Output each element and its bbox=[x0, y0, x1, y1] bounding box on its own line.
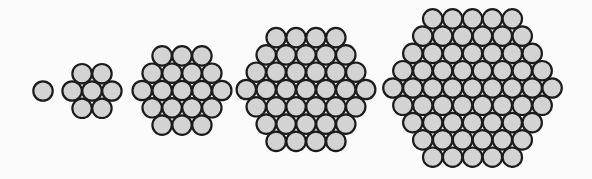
circle bbox=[346, 62, 365, 81]
circle bbox=[306, 62, 325, 81]
circle bbox=[142, 63, 161, 82]
circle bbox=[82, 81, 101, 100]
circle bbox=[503, 9, 522, 28]
circle bbox=[383, 78, 402, 97]
circle bbox=[403, 44, 422, 63]
circle bbox=[202, 63, 221, 82]
circle bbox=[473, 96, 492, 115]
circle bbox=[532, 96, 551, 115]
circle bbox=[463, 113, 482, 132]
circle bbox=[503, 148, 522, 167]
circle bbox=[413, 26, 432, 45]
circle bbox=[443, 148, 462, 167]
circle bbox=[257, 45, 276, 64]
circle bbox=[162, 63, 181, 82]
circle bbox=[463, 78, 482, 97]
circle bbox=[433, 26, 452, 45]
circle bbox=[433, 96, 452, 115]
circle bbox=[276, 80, 295, 99]
circle bbox=[493, 26, 512, 45]
circle bbox=[513, 96, 532, 115]
circle bbox=[513, 61, 532, 80]
circle bbox=[483, 44, 502, 63]
circle bbox=[493, 96, 512, 115]
circle bbox=[212, 81, 231, 100]
circle bbox=[326, 97, 345, 116]
circle bbox=[403, 78, 422, 97]
circle bbox=[523, 78, 542, 97]
circle bbox=[276, 45, 295, 64]
circle bbox=[483, 113, 502, 132]
circle bbox=[192, 81, 211, 100]
circle bbox=[306, 97, 325, 116]
circle bbox=[336, 45, 355, 64]
circle bbox=[423, 78, 442, 97]
circle bbox=[266, 62, 285, 81]
circle bbox=[463, 9, 482, 28]
circle bbox=[473, 26, 492, 45]
diagram-canvas bbox=[0, 0, 592, 179]
circle bbox=[306, 28, 325, 47]
circle bbox=[423, 44, 442, 63]
circle bbox=[102, 81, 121, 100]
circle bbox=[493, 130, 512, 149]
circle bbox=[257, 80, 276, 99]
circle bbox=[356, 80, 375, 99]
circle bbox=[266, 97, 285, 116]
circle bbox=[483, 9, 502, 28]
circle bbox=[413, 130, 432, 149]
circle bbox=[296, 45, 315, 64]
circle bbox=[257, 114, 276, 133]
circle bbox=[286, 97, 305, 116]
circle bbox=[336, 80, 355, 99]
circle bbox=[423, 9, 442, 28]
circle bbox=[413, 96, 432, 115]
circle bbox=[393, 96, 412, 115]
circle bbox=[286, 62, 305, 81]
circle bbox=[443, 78, 462, 97]
circle bbox=[463, 44, 482, 63]
circle bbox=[473, 130, 492, 149]
circle bbox=[483, 148, 502, 167]
circle bbox=[296, 114, 315, 133]
circle bbox=[192, 115, 211, 134]
hexagonal-circle-packing-diagram bbox=[0, 0, 592, 179]
circle bbox=[172, 81, 191, 100]
circle bbox=[336, 114, 355, 133]
circle bbox=[423, 148, 442, 167]
circle bbox=[346, 97, 365, 116]
circle bbox=[296, 80, 315, 99]
circle bbox=[453, 130, 472, 149]
circle bbox=[453, 96, 472, 115]
circle bbox=[72, 99, 91, 118]
circle bbox=[172, 46, 191, 65]
circle bbox=[182, 98, 201, 117]
circle bbox=[433, 130, 452, 149]
circle bbox=[247, 97, 266, 116]
circle bbox=[423, 113, 442, 132]
circle bbox=[202, 98, 221, 117]
circle bbox=[306, 132, 325, 151]
circle bbox=[503, 113, 522, 132]
circle bbox=[286, 132, 305, 151]
circle bbox=[433, 61, 452, 80]
circle bbox=[142, 98, 161, 117]
circle bbox=[92, 64, 111, 83]
circle bbox=[192, 46, 211, 65]
circle bbox=[182, 63, 201, 82]
hex-5-group bbox=[383, 9, 562, 167]
circle bbox=[286, 28, 305, 47]
hex-1-group bbox=[33, 81, 52, 100]
circle bbox=[237, 80, 256, 99]
hex-2-group bbox=[62, 64, 121, 118]
circle bbox=[513, 26, 532, 45]
circle bbox=[523, 113, 542, 132]
circle bbox=[152, 115, 171, 134]
circle bbox=[503, 44, 522, 63]
circle bbox=[33, 81, 52, 100]
circle bbox=[473, 61, 492, 80]
circle bbox=[503, 78, 522, 97]
circle bbox=[316, 80, 335, 99]
circle bbox=[247, 62, 266, 81]
circle bbox=[172, 115, 191, 134]
